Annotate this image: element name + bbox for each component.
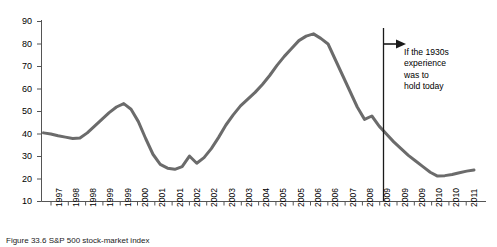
x-tick-label: 2010 (435, 188, 444, 207)
y-tick-label: 80 (10, 40, 32, 49)
y-tick-label: 40 (10, 130, 32, 139)
x-tick-label: 2003 (228, 188, 237, 207)
y-tick-label: 60 (10, 85, 32, 94)
x-tick-label: 2005 (279, 188, 288, 207)
x-tick-label: 1998 (72, 188, 81, 207)
x-tick-label: 2011 (470, 189, 479, 207)
y-tick-marks (37, 22, 42, 202)
annotation-line-3: was to (404, 70, 492, 81)
annotation-line-1: If the 1930s (404, 47, 492, 58)
x-tick-label: 2010 (452, 188, 461, 207)
x-tick-label: 1999 (124, 188, 133, 207)
x-tick-label: 1998 (89, 188, 98, 207)
x-tick-label: 2006 (314, 188, 323, 207)
x-tick-label: 2009 (383, 188, 392, 207)
x-tick-label: 2006 (331, 188, 340, 207)
x-tick-label: 2002 (210, 188, 219, 207)
x-tick-label: 2009 (418, 188, 427, 207)
y-tick-label: 90 (10, 17, 32, 26)
chart-canvas (0, 0, 497, 247)
x-tick-label: 1997 (55, 188, 64, 207)
x-tick-label: 2008 (366, 188, 375, 207)
x-tick-label: 2005 (297, 188, 306, 207)
x-tick-label: 2000 (141, 188, 150, 207)
annotation-line-2: experience (404, 58, 492, 69)
x-tick-label: 2002 (193, 188, 202, 207)
y-tick-label: 10 (10, 197, 32, 206)
x-tick-label: 2001 (158, 188, 167, 207)
x-tick-label: 2007 (349, 188, 358, 207)
y-tick-label: 20 (10, 175, 32, 184)
figure-container: 102030405060708090 199719981998199919992… (0, 0, 497, 247)
y-tick-label: 30 (10, 152, 32, 161)
x-tick-label: 2009 (401, 188, 410, 207)
y-tick-label: 50 (10, 107, 32, 116)
figure-caption: Figure 33.6 S&P 500 stock-market index (6, 236, 466, 247)
x-tick-label: 2003 (245, 188, 254, 207)
annotation-text: If the 1930s experience was to hold toda… (404, 47, 492, 93)
x-tick-label: 1999 (106, 188, 115, 207)
x-tick-label: 2004 (262, 188, 271, 207)
y-tick-label: 70 (10, 62, 32, 71)
x-tick-label: 2001 (176, 188, 185, 207)
annotation-line-4: hold today (404, 81, 492, 92)
